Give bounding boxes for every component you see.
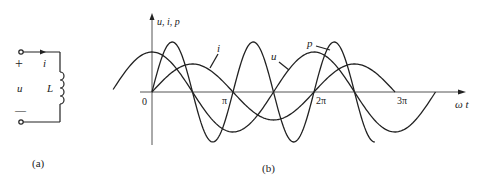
current-arrow-icon [40, 50, 46, 55]
top-terminal [19, 50, 23, 54]
inductor-coil [60, 72, 64, 104]
origin-label: 0 [142, 96, 147, 107]
minus-sign: — [14, 104, 27, 116]
inductor-label: L [46, 82, 53, 94]
figure: + i u L — (a) u, i, p 0 π 2π 3π ω t i u … [0, 0, 484, 187]
tick-2pi: 2π [316, 95, 326, 106]
tick-3pi: 3π [397, 95, 407, 106]
plus-sign: + [15, 56, 23, 71]
x-axis-label: ω t [455, 98, 470, 110]
curve-label-p: p [306, 37, 313, 49]
voltage-label: u [17, 82, 23, 94]
caption-b: (b) [262, 162, 275, 175]
y-axis-label: u, i, p [157, 16, 180, 27]
y-axis-arrow-icon [150, 13, 155, 20]
current-label: i [43, 57, 46, 69]
x-axis-arrow-icon [458, 90, 466, 95]
curve-label-i: i [217, 42, 220, 54]
caption-a: (a) [32, 157, 45, 170]
bottom-terminal [19, 120, 23, 124]
tick-pi: π [222, 95, 227, 106]
curve-label-u: u [271, 50, 277, 62]
